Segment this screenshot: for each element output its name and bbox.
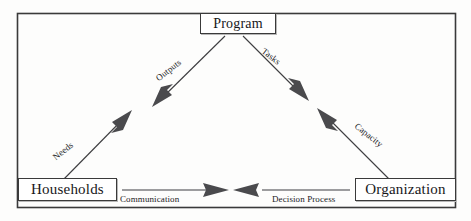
arrowhead-outputs bbox=[152, 84, 173, 107]
node-program-label: Program bbox=[213, 16, 263, 32]
edge-label-decision-process: Decision Process bbox=[272, 194, 335, 204]
diagram-canvas: Program Households Organization Needs Ou… bbox=[0, 0, 471, 221]
arrowhead-capacity bbox=[317, 108, 338, 131]
arrowhead-tasks bbox=[288, 78, 309, 101]
node-organization[interactable]: Organization bbox=[355, 178, 456, 201]
node-households[interactable]: Households bbox=[18, 178, 117, 201]
arrowhead-decision-process bbox=[233, 183, 259, 197]
arrowhead-needs bbox=[111, 110, 132, 133]
node-organization-label: Organization bbox=[365, 181, 445, 198]
node-households-label: Households bbox=[31, 181, 104, 198]
arrowhead-communication bbox=[203, 183, 229, 197]
edge-label-communication: Communication bbox=[120, 194, 179, 204]
edge-line-tasks bbox=[243, 36, 300, 93]
node-program[interactable]: Program bbox=[200, 13, 276, 34]
